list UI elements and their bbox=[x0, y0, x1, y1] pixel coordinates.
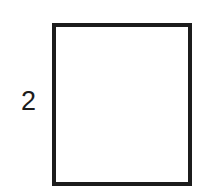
side-length-label: 2 bbox=[21, 88, 36, 115]
geometry-figure: 2 bbox=[0, 0, 214, 195]
